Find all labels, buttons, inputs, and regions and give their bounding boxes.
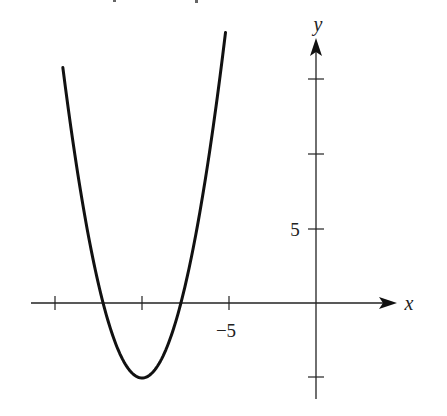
y-axis-label: y	[312, 13, 323, 36]
parabola-chart: −5 x 5 y	[0, 0, 447, 416]
parabola-curve	[63, 32, 226, 378]
cropped-text-fragments	[113, 0, 198, 3]
x-tick-label-neg5: −5	[216, 320, 236, 341]
y-tick-label-5: 5	[290, 219, 300, 240]
x-axis: −5 x	[31, 292, 414, 341]
x-axis-label: x	[404, 292, 414, 314]
y-axis: 5 y	[290, 13, 324, 399]
